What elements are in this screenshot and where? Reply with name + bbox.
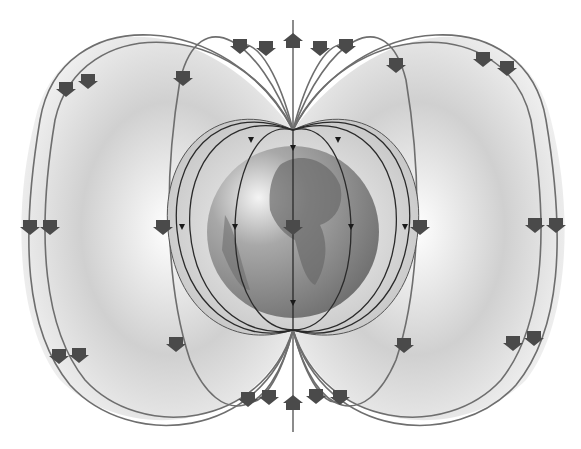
magnetic-field-illustration [0, 0, 581, 449]
